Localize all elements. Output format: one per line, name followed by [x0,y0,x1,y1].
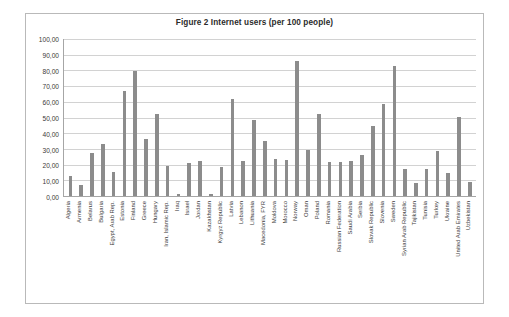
x-axis-tick-label: Israel [185,201,191,215]
x-axis-label-slot: Bulgaria [96,199,107,299]
bar[interactable] [209,194,213,196]
x-axis-tick-label: Latvia [229,201,235,217]
bar-slot [335,39,346,196]
x-axis-tick-label: Oman [304,201,310,217]
x-axis-label-slot: Finland [129,199,140,299]
y-axis-tick-label: 80,00 [42,67,59,74]
bar[interactable] [263,141,267,196]
bar[interactable] [144,139,148,196]
x-axis-tick-label: Turkey [434,201,440,219]
bar[interactable] [339,162,343,196]
bar-slot [443,39,454,196]
x-axis-label-slot: Macedonia, FYR [259,199,270,299]
bar-slot [270,39,281,196]
bar[interactable] [112,172,116,196]
x-axis-label-slot: Ukraine [442,199,453,299]
x-axis-label-slot: Estonia [118,199,129,299]
x-axis-label-slot: Slovak Republic [367,199,378,299]
x-axis-label-slot: Russian Federation [334,199,345,299]
bar[interactable] [252,120,256,196]
bar[interactable] [382,104,386,196]
x-axis-tick-label: Kyrgyz Republic [218,201,224,244]
bar[interactable] [393,66,397,196]
bar[interactable] [425,169,429,196]
x-axis-label-slot: Sweden [388,199,399,299]
y-axis: 100,0090,0080,0070,0060,0050,0040,0030,0… [26,39,62,197]
bar[interactable] [446,173,450,196]
bar[interactable] [79,185,83,196]
x-axis-tick-label: Saudi Arabia [348,201,354,234]
bar[interactable] [403,169,407,196]
x-axis-tick-label: Kazakhstan [207,201,213,232]
bar-slot [108,39,119,196]
bar[interactable] [414,183,418,196]
y-axis-tick-label: 20,00 [42,162,59,169]
x-axis-label-slot: Slovenia [378,199,389,299]
x-axis-label-slot: Iran, Islamic Rep. [161,199,172,299]
x-axis-tick-label: Estonia [121,201,127,221]
bar-slot [97,39,108,196]
bar[interactable] [371,126,375,196]
y-axis-tick-label: 30,00 [42,146,59,153]
bar-slot [454,39,465,196]
bar[interactable] [231,99,235,196]
x-axis-label-slot: Greece [140,199,151,299]
bar-slot [205,39,216,196]
x-axis-tick-label: Hungary [153,201,159,223]
bar-slot [389,39,400,196]
bar[interactable] [328,162,332,196]
bar[interactable] [198,161,202,196]
bar[interactable] [285,160,289,196]
bar-slot [162,39,173,196]
bar-slot [238,39,249,196]
x-axis-tick-label: Iran, Islamic Rep. [164,201,170,247]
bar[interactable] [274,159,278,196]
x-axis-tick-label: Moldova [272,201,278,223]
bar[interactable] [360,155,364,196]
x-axis-tick-label: Ukraine [445,201,451,221]
x-axis-label-slot: Oman [302,199,313,299]
x-axis-label-slot: Norway [291,199,302,299]
x-axis-tick-label: Greece [142,201,148,220]
x-axis-label-slot: Armenia [75,199,86,299]
x-axis-tick-label: Algeria [66,201,72,219]
bar[interactable] [155,114,159,196]
x-axis-tick-label: Poland [315,201,321,219]
x-axis-label-slot: Lithuania [248,199,259,299]
y-axis-tick-label: 0,00 [46,194,59,201]
bar-slot [292,39,303,196]
bar[interactable] [306,150,310,196]
bar[interactable] [133,71,137,196]
bar[interactable] [457,117,461,196]
x-axis-tick-label: Serbia [358,201,364,218]
bar-slot [259,39,270,196]
bar[interactable] [468,182,472,196]
bar[interactable] [166,166,170,196]
bar[interactable] [220,167,224,196]
bar[interactable] [317,114,321,196]
bar[interactable] [101,144,105,196]
bar-slot [378,39,389,196]
x-axis-tick-label: Egypt, Arab Rep. [110,201,116,246]
bar[interactable] [295,61,299,196]
x-axis-label-slot: Kyrgyz Republic [215,199,226,299]
bar[interactable] [187,163,191,196]
x-axis-tick-label: Belarus [88,201,94,221]
bar-slot [184,39,195,196]
y-axis-tick-label: 60,00 [42,99,59,106]
x-axis-label-slot: Kazakhstan [205,199,216,299]
bar-slot [400,39,411,196]
y-axis-tick-label: 90,00 [42,51,59,58]
x-axis-tick-label: Sweden [391,201,397,222]
x-axis-label-slot: Romania [324,199,335,299]
bar[interactable] [90,153,94,196]
bar[interactable] [177,194,181,196]
bar[interactable] [436,151,440,196]
bar[interactable] [69,176,73,196]
bar-slot [195,39,206,196]
bar[interactable] [241,161,245,196]
bar[interactable] [349,161,353,196]
x-axis-tick-label: Armenia [77,201,83,223]
x-axis-label-slot: United Arab Emirates [453,199,464,299]
bar[interactable] [123,91,127,196]
